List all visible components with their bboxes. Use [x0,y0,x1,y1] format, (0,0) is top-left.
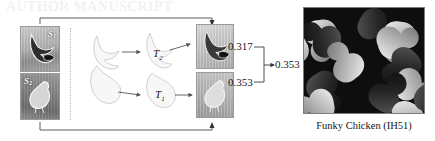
transform-label-1: T1 [155,89,165,103]
score-top: 0.317 [228,41,253,52]
bracket-bottom [40,122,212,130]
input-shape-top [94,36,119,69]
tile-caption: Funky Chicken (IH51) [303,120,425,131]
funky-chicken-tile [303,7,425,114]
arrow-t2-to-result-top [170,44,190,50]
input-shape-bottom [91,66,121,103]
tessellation-pattern [304,8,424,113]
source-top-label: S1 [48,30,56,39]
source-bottom-label: S2 [24,77,32,86]
figure-root: AUTHOR MANUSCRIPT S1 S2 [0,0,435,141]
score-merge-bracket [254,47,264,82]
score-bottom: 0.353 [228,77,253,88]
bracket-bottom-arrowhead [210,122,215,128]
bracket-top [40,18,212,24]
panel-divider [70,28,71,120]
watermark-text: AUTHOR MANUSCRIPT [6,0,226,15]
source-image-bottom: S2 [20,73,60,120]
transform-label-2: T2 [153,48,163,62]
score-combined: 0.353 [275,59,300,70]
arrow-input-bottom-to-t1 [118,92,140,95]
source-image-top: S1 [20,26,60,72]
